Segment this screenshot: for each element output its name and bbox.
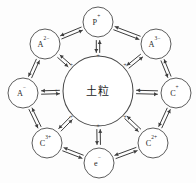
node-c-3-plus-circle [32,128,62,158]
equilibrium-arrow-node-a-3-minus-to-node-c-plus [161,60,171,78]
node-c-2-plus-superscript: 2+ [151,134,157,140]
node-a-minus-circle [8,78,38,108]
charge-top: + [96,52,100,59]
charge-left: + [54,87,58,94]
node-c-2-plus-circle [138,128,168,158]
diagram-svg: 土粒 ++++++++ P+A3−C+C2+e−C3+A−A2− [0,0,196,183]
equilibrium-arrow-node-c-3-plus-to-node-a-minus [29,108,41,128]
equilibrium-arrow-center-to-node-a-3-minus [127,54,143,68]
charge-upper-left: + [69,61,73,68]
node-c-2-plus[interactable]: C2+ [138,128,168,158]
equilibrium-arrow-node-c-2-plus-to-node-e-minus [115,147,137,158]
node-p-plus-circle [83,7,113,37]
equilibrium-arrow-center-to-node-e-minus [95,129,102,144]
node-e-minus-circle [84,148,114,178]
node-p-plus-superscript: + [97,13,100,19]
arrow-head-forward [98,41,102,44]
diagram-canvas: 土粒 ++++++++ P+A3−C+C2+e−C3+A−A2− [0,0,196,183]
node-c-3-plus-superscript: 3+ [45,134,51,140]
node-a-minus-superscript: − [23,84,26,90]
node-c-plus[interactable]: C+ [161,78,191,108]
node-a-2-minus-circle [30,29,60,59]
arrow-head-forward [41,89,44,93]
node-c-plus-circle [161,78,191,108]
equilibrium-arrow-node-a-2-minus-to-node-p-plus [61,27,83,39]
equilibrium-arrow-center-to-node-p-plus [94,41,101,53]
charge-lower-left: + [69,113,73,120]
node-a-3-minus[interactable]: A3− [141,29,171,59]
charge-upper-right: + [123,61,127,68]
node-c-plus-superscript: + [176,84,179,90]
equilibrium-arrow-node-a-minus-to-node-a-2-minus [28,59,40,77]
node-a-minus[interactable]: A− [8,78,38,108]
node-a-3-minus-superscript: 3− [154,35,160,41]
equilibrium-arrow-node-p-plus-to-node-a-3-minus [114,26,140,40]
equilibrium-arrow-node-c-plus-to-node-c-2-plus [158,108,170,128]
charge-right: + [138,87,142,94]
node-p-plus[interactable]: P+ [83,7,113,37]
arrow-head-forward [95,141,99,144]
node-e-minus[interactable]: e− [84,148,114,178]
soil-particle-label: 土粒 [86,84,109,98]
arrow-head-forward [154,92,157,96]
arrow-head-reverse [98,129,102,132]
node-c-3-plus[interactable]: C3+ [32,128,62,158]
charge-bottom: + [96,122,100,129]
charge-lower-right: + [123,113,127,120]
node-a-3-minus-circle [141,29,171,59]
node-a-2-minus[interactable]: A2− [30,29,60,59]
node-a-2-minus-superscript: 2− [43,35,49,41]
node-e-minus-superscript: − [98,154,101,160]
equilibrium-arrow-center-to-node-c-2-plus [125,116,141,131]
equilibrium-arrow-node-e-minus-to-node-c-3-plus [63,147,84,159]
